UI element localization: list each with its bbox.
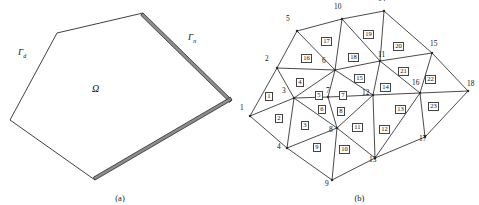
mesh-element-label: 7 [339, 91, 347, 100]
mesh-node-point [331, 179, 334, 182]
mesh-edge [277, 31, 297, 68]
panel-a-caption: (a) [0, 193, 240, 203]
dirichlet-boundary-segment [10, 120, 95, 180]
mesh-element-label: 23 [428, 102, 439, 111]
mesh-node-label: 11 [378, 50, 385, 59]
gamma-n-label: Γn [188, 32, 196, 44]
mesh-element-label: 21 [398, 67, 409, 76]
mesh-node-point [341, 18, 344, 21]
mesh-element-label: 3 [301, 121, 309, 130]
mesh-node-point [383, 10, 386, 13]
mesh-element-label: 22 [425, 75, 436, 84]
figure-container: (a) ΓdΓnΩ (b) 12345678910111213141516171… [0, 0, 479, 205]
neumann-boundary-band [141, 13, 232, 102]
mesh-element-label: 4 [296, 78, 304, 87]
gamma-d-label: Γd [18, 47, 26, 59]
mesh-node-label: 6 [322, 56, 326, 65]
panel-b-caption: (b) [240, 193, 479, 203]
mesh-edge [373, 61, 380, 95]
mesh-element-label: 9 [313, 143, 321, 152]
mesh-edge [373, 93, 420, 95]
mesh-node-point [372, 94, 375, 97]
mesh-node-label: 2 [265, 54, 269, 63]
mesh-node-label: 13 [369, 155, 376, 164]
mesh-edge [287, 98, 294, 148]
mesh-edge [277, 68, 335, 70]
mesh-element-label: 15 [354, 74, 365, 83]
mesh-node-point [296, 30, 299, 33]
mesh-element-label: 16 [301, 54, 312, 63]
mesh-edge [425, 91, 468, 137]
mesh-element-label: 1 [265, 92, 273, 101]
mesh-node-point [293, 97, 296, 100]
neumann-boundary-band [93, 97, 232, 180]
mesh-edge [432, 53, 468, 91]
mesh-element-label: 10 [339, 145, 350, 154]
mesh-element-label: 18 [348, 53, 359, 62]
mesh-node-point [379, 60, 382, 63]
mesh-node-point [419, 92, 422, 95]
mesh-node-label: 1 [240, 103, 244, 112]
mesh-element-label: 2 [275, 114, 283, 123]
mesh-edge [335, 61, 380, 70]
mesh-node-point [334, 69, 337, 72]
mesh-edge [420, 91, 468, 93]
mesh-node-label: 4 [277, 142, 281, 151]
mesh-node-point [431, 52, 434, 55]
mesh-node-label: 12 [362, 88, 369, 97]
mesh-element-label: 8 [337, 107, 345, 116]
mesh-edge [420, 93, 425, 137]
mesh-element-label: 11 [352, 123, 363, 132]
mesh-element-label: 13 [395, 105, 406, 114]
dirichlet-boundary-segment [57, 13, 143, 33]
mesh-node-point [286, 147, 289, 150]
mesh-node-label: 8 [329, 125, 333, 134]
mesh-element-label: 12 [379, 125, 390, 134]
mesh-edge [287, 148, 332, 180]
mesh-node-label: 15 [430, 39, 437, 48]
mesh-node-label: 5 [286, 14, 290, 23]
mesh-edge [384, 11, 432, 53]
mesh-element-label: 19 [363, 30, 374, 39]
panel-a-svg [0, 0, 240, 205]
mesh-element-label: 20 [393, 42, 404, 51]
panel-b-mesh-diagram: (b) 123456789101112131415161718123456789… [240, 0, 479, 205]
mesh-node-point [467, 90, 470, 93]
mesh-element-label: 5 [315, 91, 323, 100]
mesh-edge [332, 128, 337, 180]
mesh-node-point [327, 96, 330, 99]
mesh-edge [250, 68, 277, 116]
mesh-edge [380, 53, 432, 61]
mesh-edge [328, 97, 337, 128]
mesh-edge [335, 19, 342, 70]
mesh-edge [373, 95, 375, 158]
mesh-node-label: 10 [334, 2, 341, 11]
mesh-node-label: 9 [325, 179, 329, 188]
mesh-element-label: 17 [321, 37, 332, 46]
panel-a-domain-diagram: (a) ΓdΓnΩ [0, 0, 240, 205]
mesh-edge [420, 53, 432, 93]
omega-domain-label: Ω [92, 83, 99, 94]
mesh-node-label: 3 [282, 86, 286, 95]
mesh-node-point [276, 67, 279, 70]
mesh-element-label: 14 [380, 83, 391, 92]
mesh-edge [294, 97, 328, 98]
mesh-node-label: 16 [412, 78, 419, 87]
mesh-edge [297, 19, 342, 31]
mesh-edge [342, 11, 384, 19]
mesh-element-label: 6 [318, 105, 326, 114]
mesh-node-point [249, 115, 252, 118]
mesh-node-label: 17 [419, 134, 426, 143]
mesh-node-label: 14 [378, 0, 385, 3]
mesh-node-label: 18 [467, 79, 474, 88]
mesh-node-point [336, 127, 339, 130]
panel-b-svg [240, 0, 479, 205]
mesh-node-label: 7 [326, 86, 330, 95]
